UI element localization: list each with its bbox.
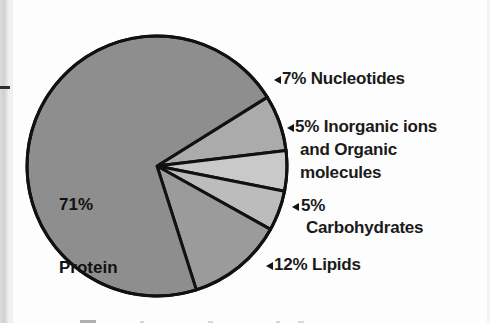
callout-carbohydrates-line-2: Carbohydrates	[306, 218, 423, 238]
callout-inorganic-line-2: and Organic	[300, 140, 397, 160]
arrow-left-icon-lipids	[266, 262, 273, 270]
cut-off-caption	[80, 317, 320, 323]
slice-label-protein: 71% Protein	[59, 152, 118, 320]
callout-nucleotides-line-1: 7% Nucleotides	[282, 69, 405, 89]
arrow-left-icon-inorganic	[287, 124, 294, 132]
callout-inorganic-line-3: molecules	[300, 163, 381, 183]
slice-label-protein-name: Protein	[59, 257, 118, 278]
slice-label-protein-percent: 71%	[59, 194, 118, 215]
figure-canvas: 71% Protein 7% Nucleotides 5% Inorganic …	[0, 0, 490, 323]
callout-lipids-line-1: 12% Lipids	[274, 255, 361, 275]
arrow-left-icon-nucleotides	[274, 76, 281, 84]
callout-inorganic-line-1: 5% Inorganic ions	[295, 117, 437, 137]
arrow-left-icon-carbohydrates	[292, 203, 299, 211]
callout-carbohydrates-line-1: 5%	[301, 196, 325, 216]
